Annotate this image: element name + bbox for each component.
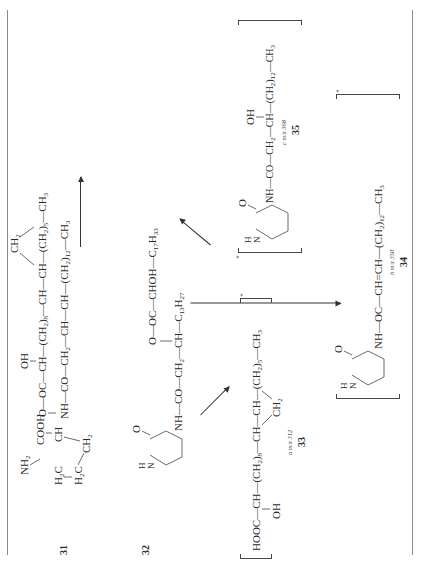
compound-35-oh: OH xyxy=(244,109,256,125)
compound-34-chain: NH—OC—CH=CH—(CH2)12—CH3 xyxy=(372,185,388,349)
arrow-32-to-35 xyxy=(180,219,211,245)
reaction-scheme: 31 NH2 COOH H2C CH H2C CH2 OH CH2 O—OC—C… xyxy=(0,0,422,565)
compound-35-bracket-right xyxy=(238,20,302,25)
compound-35-bracket-left xyxy=(238,248,302,253)
compound-31-label: 31 xyxy=(58,545,69,555)
compound-33-mz: a m/z 312 xyxy=(286,430,293,455)
compound-31-nh2: NH2 xyxy=(18,456,34,475)
compound-35-label: 35 xyxy=(290,125,301,135)
compound-31-oh: OH xyxy=(18,353,30,369)
compound-32-o: O xyxy=(130,425,142,433)
compound-31-ester-chain: O—OC—CH—(CH2)8—CH—CH—(CH2)5—CH3 xyxy=(36,193,52,417)
compound-35-chain: NH—CO—CH2—CH—(CH2)12—CH3 xyxy=(264,45,279,203)
compound-33-charge: + xyxy=(236,293,248,297)
compound-33-oh: OH xyxy=(270,503,282,519)
compound-33-chain: HOOC—CH—(CH2)8—CH—CH—(CH2)5—CH3 xyxy=(250,330,266,551)
compound-31-ch2: CH2 xyxy=(80,434,96,453)
arrow-31-to-32 xyxy=(80,177,81,247)
compound-31-cooh: COOH xyxy=(34,414,46,445)
compound-32-amide-chain: NH—CO—CH2—CH—C13H27 xyxy=(172,292,188,431)
compound-34-o: O xyxy=(332,345,344,353)
compound-31-cp-ch2: CH2 xyxy=(8,234,24,253)
compound-33-label: 33 xyxy=(296,437,307,447)
compound-31-ch: CH xyxy=(52,427,64,442)
compound-34-label: 34 xyxy=(398,257,409,267)
compound-32-hn: HN xyxy=(138,463,156,470)
compound-35-mz: c m/z 368 xyxy=(280,120,287,145)
compound-34-mz: b m/z 350 xyxy=(388,250,395,275)
arrow-32-to-33 xyxy=(200,386,229,415)
compound-32-label: 32 xyxy=(140,545,151,555)
compound-31-h2c-2: H2C xyxy=(72,466,88,485)
compound-32-ester-chain: O—OC—CHOH—C17H33 xyxy=(146,228,162,345)
compound-34-charge: + xyxy=(332,89,344,93)
compound-34-bracket-left xyxy=(336,394,400,399)
compound-35-charge: + xyxy=(232,255,244,259)
compound-34-hn: HN xyxy=(340,383,358,390)
compound-33-cp-ch2: CH2 xyxy=(270,398,286,417)
compound-31-h2c-1: H2C xyxy=(52,466,68,485)
compound-35-hn: HN xyxy=(244,237,262,244)
compound-35-o: O xyxy=(236,199,248,207)
compound-35-oh-bond xyxy=(0,555,10,565)
compound-33-bracket-right xyxy=(240,298,272,303)
compound-33-bracket-left xyxy=(240,554,272,559)
compound-34-bracket-right xyxy=(336,94,400,99)
compound-31-amide-chain: NH—CO—CH2—CH—CH—(CH2)12—CH3 xyxy=(58,221,74,419)
